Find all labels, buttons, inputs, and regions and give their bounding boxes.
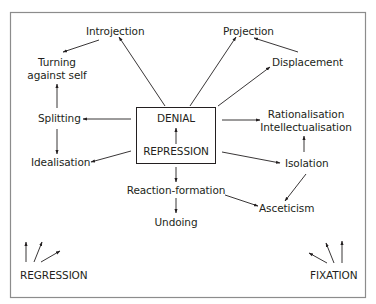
arrow-fixation-1: [309, 253, 327, 263]
node-rationalisation: Rationalisation: [258, 108, 354, 121]
node-asceticism: Asceticism: [259, 202, 314, 215]
node-regression: REGRESSION: [20, 269, 88, 282]
repression-label: REPRESSION: [136, 145, 216, 158]
arrow-center-introjection: [119, 37, 165, 106]
arrow-regression-2: [34, 242, 42, 262]
arrow-fixation-2: [326, 243, 334, 263]
node-splitting: Splitting: [38, 112, 81, 125]
node-intellectualisation: Intellectualisation: [258, 121, 354, 134]
node-idealisation: Idealisation: [31, 156, 90, 169]
node-turning-line2: against self: [22, 69, 92, 82]
node-displacement: Displacement: [272, 56, 343, 69]
defence-mechanisms-diagram: DENIAL REPRESSION Introjection Turning a…: [0, 0, 376, 304]
denial-label: DENIAL: [136, 112, 216, 125]
arrow-introjection-turning: [63, 40, 99, 52]
arrow-center-idealisation: [91, 151, 131, 162]
node-undoing: Undoing: [146, 216, 206, 229]
node-turning-line1: Turning: [22, 56, 92, 69]
node-isolation: Isolation: [285, 157, 329, 170]
arrow-center-isolation: [222, 152, 280, 163]
arrow-center-displacement: [218, 67, 270, 106]
arrow-reaction-asceticism: [225, 195, 258, 206]
arrow-regression-3: [41, 251, 60, 262]
arrow-displacement-projection: [254, 38, 298, 52]
arrow-isolation-asceticism: [285, 174, 306, 201]
arrow-center-projection: [190, 37, 236, 106]
node-reaction-formation: Reaction-formation: [126, 184, 226, 197]
node-projection: Projection: [223, 25, 274, 38]
node-introjection: Introjection: [86, 25, 144, 38]
node-fixation: FIXATION: [310, 269, 358, 282]
